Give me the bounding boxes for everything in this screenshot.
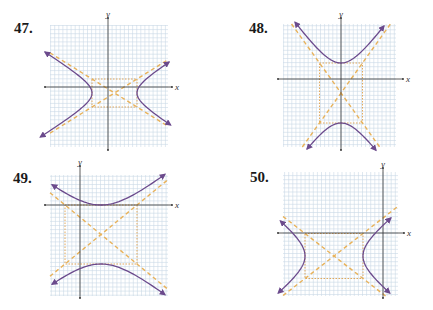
x-axis-label: x — [174, 82, 179, 92]
y-axis-label: y — [380, 159, 385, 169]
graph-50: xy — [278, 159, 411, 298]
graph-47: xy — [40, 9, 179, 150]
graph-48: xy — [278, 9, 410, 150]
y-axis-label: y — [77, 157, 82, 167]
y-axis-label: y — [105, 9, 110, 19]
x-axis-label: x — [174, 200, 179, 210]
hyperbola-graphs: xyxyxyxy — [0, 0, 433, 310]
y-axis-label: y — [338, 9, 343, 19]
graph-49: xy — [45, 157, 179, 298]
x-axis-label: x — [405, 74, 410, 84]
x-axis-label: x — [406, 228, 411, 238]
